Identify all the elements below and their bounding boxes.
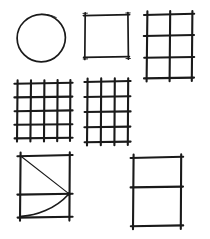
figure-grid-2x3 [144, 11, 194, 81]
figure-grid-3x4 [84, 78, 130, 145]
figure-divided-rectangle [131, 154, 184, 229]
figure-grid-4x4 [14, 80, 72, 142]
figure-circle [17, 14, 65, 62]
sketch-page [0, 0, 210, 239]
figure-empty-square [83, 13, 130, 60]
sketch-canvas [0, 0, 210, 239]
figure-square-diagonal-curve [17, 152, 72, 220]
